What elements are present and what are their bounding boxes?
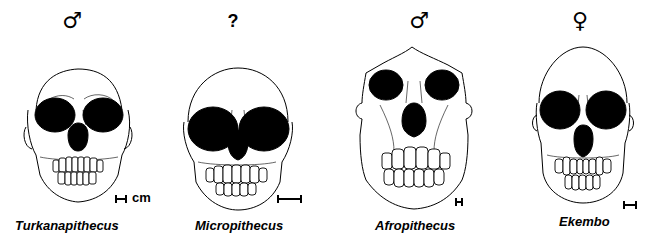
turkanapithecus-skull-drawing (18, 65, 138, 210)
afropithecus-skull-drawing (350, 45, 480, 215)
specimen-label-afropithecus: Afropithecus (375, 218, 455, 233)
unknown-sex-symbol: ? (213, 12, 253, 30)
female-symbol-icon: ♀ (560, 10, 600, 32)
scale-bar (277, 195, 302, 203)
specimen-label-turkanapithecus: Turkanapithecus (15, 218, 119, 233)
scale-unit-label: cm (132, 190, 151, 205)
scale-bar (115, 195, 127, 203)
scale-bar (455, 198, 463, 206)
specimen-label-micropithecus: Micropithecus (195, 218, 283, 233)
male-symbol-icon: ♂ (52, 10, 92, 32)
ekembo-skull-drawing (527, 43, 639, 215)
micropithecus-skull-drawing (176, 62, 298, 214)
scale-bar (623, 201, 637, 209)
male-symbol-icon: ♂ (399, 10, 439, 32)
specimen-label-ekembo: Ekembo (559, 214, 610, 229)
